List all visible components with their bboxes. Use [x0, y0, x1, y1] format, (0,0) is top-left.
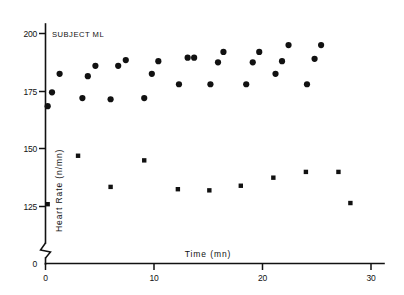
data-point: [49, 89, 55, 95]
x-tick-label-10: 10: [149, 273, 159, 283]
plot-title: SUBJECT ML: [52, 30, 104, 39]
data-point: [176, 187, 180, 191]
data-point: [85, 73, 91, 79]
x-axis-title: Time (mn): [185, 249, 232, 259]
data-point: [191, 55, 197, 61]
data-point: [79, 95, 85, 101]
y-tick-label-125: 125: [23, 202, 37, 212]
y-tick-label-175: 175: [23, 87, 37, 97]
data-point: [348, 201, 352, 205]
series-upper-points: [45, 42, 325, 109]
data-point: [304, 170, 308, 174]
series-lower-points: [45, 154, 352, 207]
scatter-plot: 200 175 150 125 0 0 10 20 30 Time (mn) H…: [0, 0, 404, 295]
y-axis-break-icon: [41, 243, 51, 258]
data-point: [336, 170, 340, 174]
data-point: [256, 49, 262, 55]
data-point: [285, 42, 291, 48]
data-point: [271, 175, 275, 179]
x-tick-label-0: 0: [43, 273, 48, 283]
data-point: [220, 49, 226, 55]
data-point: [215, 59, 221, 65]
y-axis-title: Heart Rate (n/mn): [54, 149, 64, 232]
data-point: [45, 103, 51, 109]
figure-container: 200 175 150 125 0 0 10 20 30 Time (mn) H…: [0, 0, 404, 295]
data-point: [108, 96, 114, 102]
data-point: [155, 58, 161, 64]
x-tick-label-30: 30: [366, 273, 376, 283]
data-point: [141, 95, 147, 101]
data-point: [76, 154, 80, 158]
data-point: [142, 158, 146, 162]
data-point: [272, 71, 278, 77]
data-point: [149, 71, 155, 77]
x-tick-label-20: 20: [258, 273, 268, 283]
data-point: [57, 71, 63, 77]
data-point: [176, 81, 182, 87]
data-point: [115, 63, 121, 69]
y-tick-label-200: 200: [23, 29, 37, 39]
data-point: [311, 56, 317, 62]
data-point: [279, 58, 285, 64]
data-point: [239, 184, 243, 188]
data-point: [207, 188, 211, 192]
data-point: [185, 55, 191, 61]
data-point: [304, 81, 310, 87]
data-point: [123, 57, 129, 63]
y-origin-label: 0: [32, 259, 37, 269]
data-point: [207, 81, 213, 87]
data-point: [318, 42, 324, 48]
data-point: [250, 59, 256, 65]
data-point: [108, 185, 112, 189]
data-point: [45, 202, 49, 206]
data-point: [243, 81, 249, 87]
y-tick-label-150: 150: [23, 144, 37, 154]
data-point: [92, 63, 98, 69]
